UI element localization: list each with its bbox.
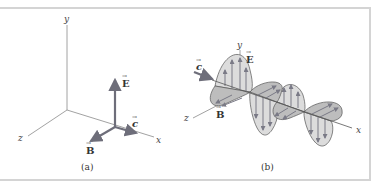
- vector-arrow-accent-icon: →: [132, 113, 137, 120]
- c-vector-label: c →: [196, 56, 202, 72]
- e-vector-label: E →: [122, 72, 130, 89]
- svg-text:E: E: [246, 54, 254, 65]
- y-axis-label: y: [236, 40, 243, 50]
- b-vector-label: B →: [86, 139, 94, 156]
- y-axis-label: y: [63, 14, 70, 24]
- svg-text:B: B: [216, 109, 224, 120]
- vector-arrow-accent-icon: →: [122, 72, 127, 79]
- caption-b: (b): [261, 162, 274, 172]
- svg-text:B: B: [86, 145, 94, 156]
- x-axis-label: x: [156, 135, 161, 145]
- vector-arrow-accent-icon: →: [246, 48, 251, 55]
- z-axis-label: z: [17, 133, 23, 143]
- x-axis-label: x: [356, 125, 361, 135]
- c-vector-arrow: [194, 72, 212, 79]
- panel-a: y z x E → c → B → (a): [17, 14, 161, 172]
- caption-a: (a): [81, 162, 93, 172]
- figure-canvas: y z x E → c → B → (a) z y: [0, 0, 382, 189]
- panel-b: z y: [183, 40, 361, 172]
- vector-arrow-accent-icon: →: [196, 56, 201, 63]
- e-vector-label: E →: [246, 48, 254, 65]
- z-axis: [28, 110, 67, 136]
- z-axis-label: z: [183, 113, 189, 123]
- vector-arrow-accent-icon: →: [86, 139, 91, 146]
- b-vector-arrow: [91, 127, 115, 141]
- x-axis: [67, 110, 154, 137]
- vector-arrow-accent-icon: →: [216, 103, 221, 110]
- svg-text:E: E: [122, 78, 130, 89]
- c-vector-label: c →: [132, 113, 138, 129]
